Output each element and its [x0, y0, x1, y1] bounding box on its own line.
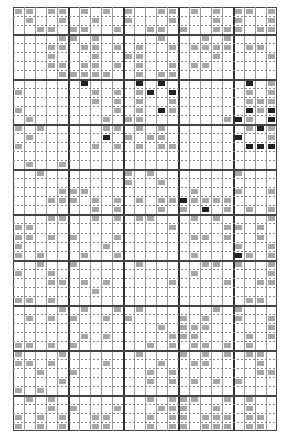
row-divider	[13, 97, 277, 98]
cell-entry	[158, 36, 165, 41]
cell-entry	[114, 307, 121, 312]
cell-entry	[26, 162, 33, 167]
cell-entry	[191, 253, 198, 258]
row-divider	[13, 404, 277, 405]
cell-entry	[48, 397, 55, 402]
cell-entry	[59, 415, 66, 420]
cell-entry	[125, 117, 132, 122]
cell-entry	[15, 108, 22, 113]
cell-entry	[180, 325, 187, 330]
cell-entry	[26, 235, 33, 240]
cell-entry	[191, 361, 198, 366]
cell-entry	[81, 45, 88, 50]
cell-entry	[103, 135, 110, 140]
cell-entry	[246, 415, 253, 420]
cell-entry	[92, 198, 99, 203]
row-divider	[13, 296, 277, 297]
cell-entry	[180, 27, 187, 32]
cell-entry	[114, 108, 121, 113]
cell-entry	[235, 307, 242, 312]
cell-entry	[268, 108, 275, 113]
cell-entry	[169, 397, 176, 402]
cell-entry	[246, 253, 253, 258]
cell-entry	[147, 90, 154, 95]
cell-entry	[59, 280, 66, 285]
cell-entry	[268, 316, 275, 321]
cell-entry	[114, 406, 121, 411]
cell-entry	[246, 144, 253, 149]
cell-entry	[136, 72, 143, 77]
cell-entry	[224, 27, 231, 32]
cell-entry	[246, 81, 253, 86]
cell-entry	[15, 271, 22, 276]
cell-entry	[114, 90, 121, 95]
row-divider	[13, 377, 277, 378]
cell-entry	[26, 225, 33, 230]
cell-entry	[235, 117, 242, 122]
cell-entry	[180, 207, 187, 212]
cell-entry	[213, 27, 220, 32]
cell-entry	[158, 27, 165, 32]
cell-entry	[48, 316, 55, 321]
cell-entry	[92, 99, 99, 104]
cell-entry	[26, 397, 33, 402]
cell-entry	[103, 316, 110, 321]
cell-entry	[125, 135, 132, 140]
cell-entry	[147, 370, 154, 375]
cell-entry	[37, 388, 44, 393]
cell-entry	[136, 198, 143, 203]
cell-entry	[125, 180, 132, 185]
cell-entry	[213, 198, 220, 203]
cell-entry	[191, 216, 198, 221]
cell-entry	[59, 9, 66, 14]
cell-entry	[235, 379, 242, 384]
cell-entry	[103, 9, 110, 14]
cell-entry	[202, 45, 209, 50]
cell-entry	[224, 36, 231, 41]
cell-entry	[48, 9, 55, 14]
cell-entry	[48, 406, 55, 411]
row-divider	[13, 43, 277, 44]
cell-entry	[15, 253, 22, 258]
cell-entry	[136, 63, 143, 68]
cell-entry	[257, 415, 264, 420]
cell-entry	[180, 406, 187, 411]
cell-entry	[92, 289, 99, 294]
cell-entry	[15, 361, 22, 366]
cell-entry	[213, 262, 220, 267]
cell-entry	[92, 216, 99, 221]
cell-entry	[48, 280, 55, 285]
cell-entry	[158, 72, 165, 77]
cell-entry	[246, 90, 253, 95]
cell-entry	[169, 45, 176, 50]
cell-entry	[246, 207, 253, 212]
cell-entry	[147, 415, 154, 420]
cell-entry	[103, 280, 110, 285]
cell-entry	[81, 63, 88, 68]
cell-entry	[268, 262, 275, 267]
cell-entry	[169, 99, 176, 104]
cell-entry	[26, 361, 33, 366]
cell-entry	[158, 135, 165, 140]
cell-entry	[158, 9, 165, 14]
cell-entry	[246, 406, 253, 411]
cell-entry	[268, 271, 275, 276]
row-divider	[13, 124, 277, 126]
cell-entry	[202, 63, 209, 68]
cell-entry	[37, 27, 44, 32]
cell-entry	[169, 343, 176, 348]
row-divider	[13, 115, 277, 116]
cell-entry	[202, 361, 209, 366]
cell-entry	[180, 397, 187, 402]
cell-entry	[202, 325, 209, 330]
cell-entry	[191, 379, 198, 384]
cell-entry	[191, 198, 198, 203]
row-divider	[13, 413, 277, 414]
row-divider	[13, 223, 277, 224]
cell-entry	[48, 63, 55, 68]
cell-entry	[158, 126, 165, 131]
cell-entry	[15, 144, 22, 149]
cell-entry	[169, 406, 176, 411]
cell-entry	[37, 262, 44, 267]
cell-entry	[224, 280, 231, 285]
